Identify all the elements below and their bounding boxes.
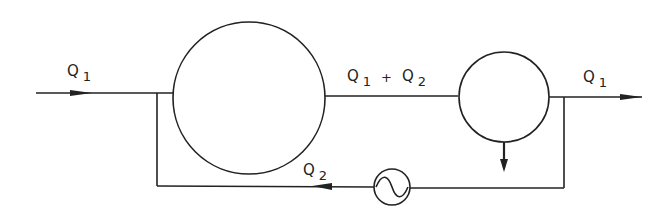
outlet-arrow-icon [620, 94, 642, 100]
small-vessel [459, 52, 549, 142]
bottom-outlet-arrow-icon [500, 159, 508, 172]
inlet-arrow-icon [70, 90, 92, 96]
recycle-bottom-left-line [157, 186, 374, 187]
recycle-arrow-icon [312, 183, 332, 190]
outlet-label: Q1 [583, 68, 607, 90]
flow-diagram: Q1 Q1+Q2 Q1 Q2 [0, 0, 670, 217]
middle-label: Q1+Q2 [347, 67, 426, 89]
large-vessel [173, 22, 325, 174]
recycle-label: Q2 [303, 161, 327, 183]
pump-sine-icon [376, 177, 408, 197]
inlet-label: Q1 [67, 62, 91, 84]
